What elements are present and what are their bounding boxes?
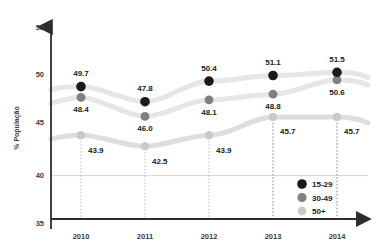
- legend-label: 15-29: [312, 180, 333, 189]
- legend-swatch-icon: [297, 193, 306, 202]
- data-label: 43.9: [88, 146, 104, 155]
- data-point[interactable]: [141, 142, 149, 150]
- y-tick-55: 55: [36, 23, 44, 32]
- data-label: 42.5: [152, 157, 168, 166]
- x-tick-2011: 2011: [137, 232, 153, 241]
- data-point[interactable]: [269, 90, 278, 99]
- x-tick-2012: 2012: [201, 232, 218, 241]
- data-label: 51.1: [265, 58, 281, 67]
- data-point[interactable]: [332, 68, 342, 78]
- data-point[interactable]: [141, 112, 150, 121]
- data-point[interactable]: [333, 113, 341, 121]
- data-label: 48.8: [265, 102, 281, 111]
- data-point[interactable]: [205, 95, 214, 104]
- data-point[interactable]: [77, 93, 86, 102]
- legend-label: 30-49: [312, 194, 333, 203]
- legend-label: 50+: [312, 207, 326, 216]
- y-axis-title: % População: [13, 106, 21, 150]
- x-tick-2010: 2010: [73, 232, 90, 241]
- legend-item-30-49[interactable]: 30-49: [297, 193, 333, 203]
- data-label: 43.9: [216, 146, 232, 155]
- y-tick-40: 40: [36, 171, 44, 180]
- data-point[interactable]: [269, 113, 277, 121]
- data-label: 50.4: [201, 64, 217, 73]
- data-point[interactable]: [204, 76, 214, 86]
- data-label: 46.0: [137, 124, 153, 133]
- data-point[interactable]: [140, 97, 150, 107]
- data-point[interactable]: [205, 131, 213, 139]
- x-tick-2013: 2013: [265, 232, 282, 241]
- x-tick-2014: 2014: [329, 232, 347, 241]
- legend-swatch-icon: [297, 179, 307, 189]
- data-point[interactable]: [76, 82, 86, 92]
- data-label: 49.7: [73, 69, 89, 78]
- data-point[interactable]: [77, 131, 85, 139]
- y-tick-50: 50: [36, 70, 44, 79]
- legend-swatch-icon: [298, 207, 307, 216]
- data-label: 51.5: [329, 55, 345, 64]
- data-label: 50.6: [329, 88, 345, 97]
- line-chart: 55 50 45 40 35 % População 2010 2011 201…: [0, 0, 380, 251]
- data-label: 45.7: [344, 127, 360, 136]
- y-tick-45: 45: [36, 118, 44, 127]
- data-label: 45.7: [280, 127, 296, 136]
- legend-item-50plus[interactable]: 50+: [298, 207, 326, 216]
- data-label: 47.8: [137, 84, 153, 93]
- data-point[interactable]: [268, 71, 278, 81]
- legend-item-15-29[interactable]: 15-29: [297, 179, 333, 189]
- chart-canvas: 55 50 45 40 35 % População 2010 2011 201…: [0, 0, 380, 251]
- y-tick-35: 35: [36, 219, 44, 228]
- data-label: 48.1: [201, 108, 217, 117]
- data-label: 48.4: [73, 105, 89, 114]
